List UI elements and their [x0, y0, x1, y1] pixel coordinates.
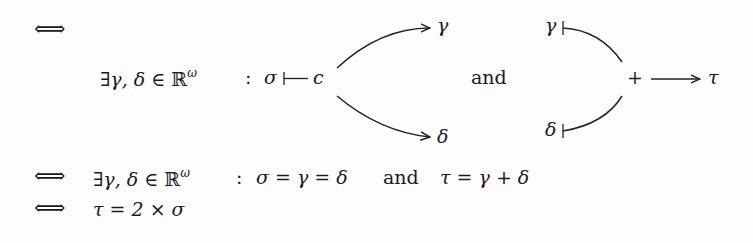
mapsto-arrow-plus-to-gamma [563, 21, 622, 62]
c-node: c [313, 66, 324, 88]
delta-source-node: δ [545, 118, 556, 140]
sigma-symbol: σ [264, 66, 277, 88]
field-symbol: ℝ [171, 68, 187, 90]
colon-line2: : [245, 66, 251, 88]
tau-node: τ [708, 66, 719, 88]
field-superscript: ω [180, 166, 190, 180]
iff-symbol-line3: ⟺ [34, 163, 66, 188]
gamma-source-node: γ [545, 14, 556, 36]
gamma-target-node: γ [437, 14, 448, 36]
exists-clause-line2: ∃γ, δ ∈ ℝω [100, 66, 197, 90]
exists-clause-line3: ∃γ, δ ∈ ℝω [93, 166, 190, 190]
exists-text: ∃γ, δ ∈ [93, 168, 164, 190]
field-symbol: ℝ [164, 168, 180, 190]
exists-text: ∃γ, δ ∈ [100, 68, 171, 90]
mapsto-arrow-sigma-c [284, 72, 308, 85]
mapsto-arrow-plus-to-delta [563, 96, 622, 138]
iff-symbol-line1: ⟺ [34, 16, 66, 41]
and-text-line3: and [383, 166, 419, 188]
and-text-line2: and [471, 66, 507, 88]
colon-line3: : [236, 166, 242, 188]
field-superscript: ω [187, 66, 197, 80]
equation-tau-two-sigma: τ = 2 × σ [93, 198, 185, 220]
arrow-c-to-delta [337, 96, 430, 137]
delta-target-node: δ [437, 125, 448, 147]
equation-sigma-gamma-delta: σ = γ = δ [256, 166, 348, 188]
plus-node: + [627, 66, 643, 88]
equation-tau-gamma-plus-delta: τ = γ + δ [440, 166, 529, 188]
iff-symbol-line4: ⟺ [34, 195, 66, 220]
arrow-c-to-gamma [337, 28, 430, 68]
